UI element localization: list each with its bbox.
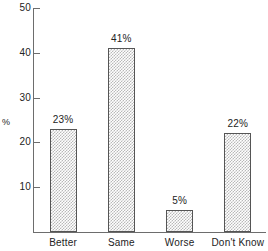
bar xyxy=(166,210,193,232)
bar-value-label: 41% xyxy=(101,34,141,44)
y-tick-label: 30 xyxy=(9,93,31,103)
y-tick: 50 xyxy=(0,3,31,13)
bar xyxy=(224,133,251,232)
bar xyxy=(50,129,77,232)
y-tick: 10 xyxy=(0,182,31,192)
x-axis-line xyxy=(33,232,266,233)
y-tick: 30 xyxy=(0,93,31,103)
bar-value-label: 22% xyxy=(218,119,258,129)
bar-chart: % 1020304050 BetterSameWorseDon't Know 2… xyxy=(0,0,268,251)
y-tick-label: 50 xyxy=(9,3,31,13)
y-tick-label: 10 xyxy=(9,182,31,192)
y-tick-label: 40 xyxy=(9,48,31,58)
y-tick-label: 20 xyxy=(9,137,31,147)
bar-value-label: 5% xyxy=(160,196,200,206)
bar xyxy=(108,48,135,232)
y-tick: 40 xyxy=(0,48,31,58)
bar-value-label: 23% xyxy=(43,115,83,125)
y-tick: 20 xyxy=(0,137,31,147)
y-axis-title: % xyxy=(2,118,10,127)
category-label: Don't Know xyxy=(198,237,268,248)
